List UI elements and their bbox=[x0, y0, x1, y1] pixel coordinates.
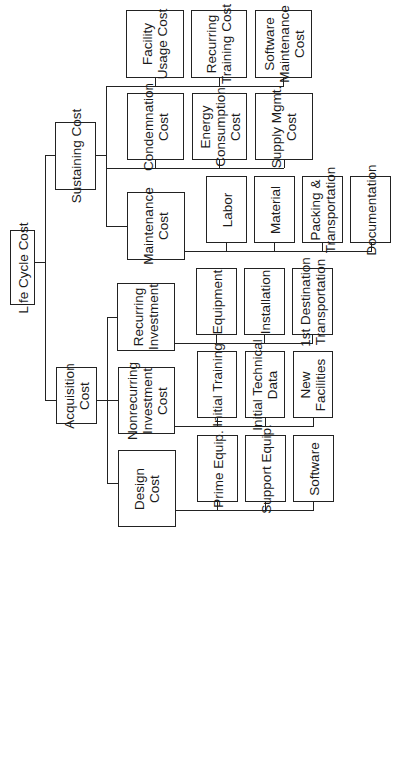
node-label: Condemnation Cost bbox=[141, 83, 171, 171]
connector bbox=[106, 168, 284, 169]
node-documentation: Documentation bbox=[350, 176, 391, 243]
node-software-maintenance-cost: Software Maintenance Cost bbox=[255, 10, 312, 78]
connector bbox=[226, 243, 227, 251]
node-label: Support Equip. bbox=[258, 424, 273, 513]
node-label: Energy Consumption Cost bbox=[197, 87, 242, 167]
connector bbox=[107, 400, 118, 401]
node-label: Recurring Investment bbox=[131, 284, 161, 350]
connector bbox=[185, 251, 372, 252]
node-new-facilities: New Facilities bbox=[293, 351, 333, 418]
node-supply-mgmt-cost: Supply Mgmt. Cost bbox=[255, 93, 313, 160]
node-facility-usage-cost: Facility Usage Cost bbox=[126, 10, 184, 78]
connector bbox=[313, 418, 314, 426]
node-maintenance-cost: Maintenance Cost bbox=[127, 192, 185, 260]
connector bbox=[274, 243, 275, 251]
node-support-equip: Support Equip. bbox=[245, 435, 286, 502]
node-prime-equip: Prime Equip. bbox=[197, 435, 238, 502]
node-acquisition-cost: Acquisition Cost bbox=[56, 367, 97, 424]
node-label: Installation bbox=[257, 269, 272, 334]
node-recurring-training-cost: Recurring Training Cost bbox=[191, 10, 247, 78]
connector bbox=[313, 502, 314, 510]
node-label: 1st Destination Transportation bbox=[298, 257, 328, 346]
node-design-cost: Design Cost bbox=[118, 450, 176, 527]
node-packing-transportation: Packing & Transportation bbox=[302, 176, 343, 243]
node-software: Software bbox=[293, 435, 334, 502]
node-label: Documentation bbox=[363, 164, 378, 255]
node-label: New Facilities bbox=[298, 358, 328, 411]
node-label: Initial Technical Data bbox=[250, 339, 280, 430]
node-material: Material bbox=[254, 176, 295, 243]
node-label: Nonrecurring Investment Cost bbox=[124, 361, 169, 439]
node-recurring-investment: Recurring Investment bbox=[117, 283, 175, 351]
node-label: Acquisition Cost bbox=[62, 363, 92, 428]
node-label: Sustaining Cost bbox=[68, 109, 83, 204]
node-sustaining-cost: Sustaining Cost bbox=[55, 122, 96, 190]
node-label: Design Cost bbox=[132, 467, 162, 509]
node-label: Equipment bbox=[209, 269, 224, 334]
node-label: Life Cycle Cost bbox=[15, 222, 30, 313]
connector bbox=[175, 343, 313, 344]
node-label: Packing & Transportation bbox=[308, 166, 338, 253]
node-label: Initial Training bbox=[210, 343, 225, 426]
node-label: Software Maintenance Cost bbox=[261, 5, 306, 82]
node-energy-consumption-cost: Energy Consumption Cost bbox=[192, 93, 247, 160]
node-condemnation-cost: Condemnation Cost bbox=[127, 93, 184, 160]
node-1st-destination-transportation: 1st Destination Transportation bbox=[292, 268, 333, 335]
connector bbox=[176, 510, 314, 511]
node-equipment: Equipment bbox=[196, 268, 237, 335]
node-label: Maintenance Cost bbox=[141, 187, 171, 264]
node-nonrecurring-investment-cost: Nonrecurring Investment Cost bbox=[118, 367, 175, 434]
node-label: Recurring Training Cost bbox=[204, 4, 234, 84]
node-label: Material bbox=[267, 185, 282, 233]
node-label: Software bbox=[306, 442, 321, 495]
node-label: Facility Usage Cost bbox=[140, 9, 170, 80]
connector bbox=[106, 86, 107, 227]
node-labor: Labor bbox=[206, 176, 247, 243]
node-label: Labor bbox=[219, 192, 234, 227]
connector bbox=[216, 335, 217, 343]
connector bbox=[45, 400, 56, 401]
node-life-cycle-cost: Life Cycle Cost bbox=[10, 230, 35, 305]
connector bbox=[106, 226, 128, 227]
connector bbox=[107, 483, 118, 484]
node-initial-training: Initial Training bbox=[197, 351, 237, 418]
node-label: Supply Mgmt. Cost bbox=[269, 85, 299, 168]
node-initial-technical-data: Initial Technical Data bbox=[245, 351, 285, 418]
node-label: Prime Equip. bbox=[210, 430, 225, 507]
connector bbox=[106, 86, 284, 87]
connector bbox=[175, 426, 314, 427]
node-installation: Installation bbox=[244, 268, 285, 335]
connector bbox=[45, 155, 46, 401]
